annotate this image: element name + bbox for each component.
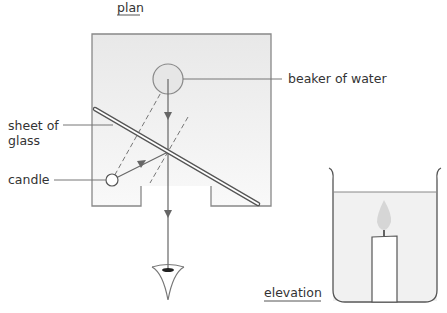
plan-label: plan	[117, 0, 144, 15]
elevation-title: elevation	[264, 285, 322, 301]
arrow-down-icon	[164, 210, 172, 218]
candle-plan-icon	[106, 174, 118, 186]
glass-label-line1: sheet of	[8, 118, 59, 133]
candle-label: candle	[8, 172, 50, 187]
beaker-label: beaker of water	[288, 71, 387, 86]
plan-title: plan	[117, 0, 144, 15]
elevation-label: elevation	[264, 285, 322, 300]
diagram: plan beaker of water sheet of glass cand…	[0, 0, 447, 313]
glass-label-line2: glass	[8, 133, 40, 148]
plan-enclosure	[92, 34, 271, 206]
eye-icon	[152, 265, 184, 301]
